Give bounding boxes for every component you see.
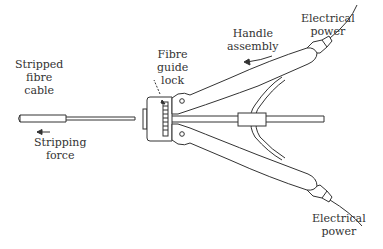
stripped-fibre-cable xyxy=(19,115,136,122)
label-stripped-fibre-cable: Stripped fibre cable xyxy=(15,58,63,97)
label-line: guide xyxy=(157,61,188,74)
label-line: power xyxy=(312,225,366,238)
fibre-stripper-diagram: Stripped fibre cable Stripping force Fib… xyxy=(0,0,383,249)
label-line: fibre xyxy=(15,71,63,84)
label-fibre-guide-lock: Fibre guide lock xyxy=(157,48,188,87)
label-line: assembly xyxy=(227,40,279,53)
label-line: lock xyxy=(157,74,188,87)
label-handle-assembly: Handle assembly xyxy=(227,27,279,53)
label-line: Electrical xyxy=(301,12,355,25)
lower-handle xyxy=(172,120,362,226)
label-line: Fibre xyxy=(157,48,188,61)
label-electrical-power-bottom: Electrical power xyxy=(312,212,366,238)
label-line: Handle xyxy=(227,27,279,40)
label-line: Stripped xyxy=(15,58,63,71)
label-line: cable xyxy=(15,84,63,97)
label-line: power xyxy=(301,25,355,38)
label-line: Electrical xyxy=(312,212,366,225)
label-electrical-power-top: Electrical power xyxy=(301,12,355,38)
label-stripping-force: Stripping force xyxy=(34,136,86,162)
label-line: Stripping xyxy=(34,136,86,149)
stripping-force-arrow xyxy=(37,130,50,135)
centre-rod xyxy=(172,113,324,126)
label-line: force xyxy=(34,149,86,162)
fibre-guide-lock-body xyxy=(143,80,172,141)
